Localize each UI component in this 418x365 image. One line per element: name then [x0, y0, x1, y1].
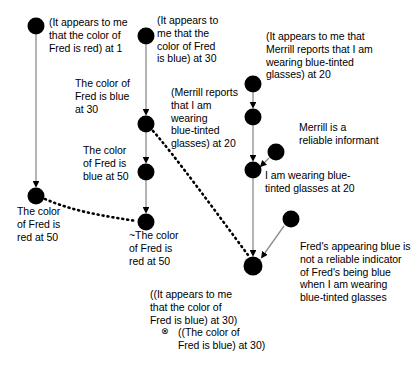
label-undercut-conclusion-part1: ((It appears to me that the color of Fre…: [150, 288, 262, 326]
label-color-blue-at-50: The color of Fred is blue at 50: [83, 144, 147, 182]
node-not-color-red-at-50[interactable]: [138, 214, 155, 231]
node-color-blue-at-30[interactable]: [138, 116, 155, 133]
edge-support-n9-n10: [261, 158, 269, 166]
diagram-canvas: (It appears to me that the color of Fred…: [0, 0, 418, 365]
label-undercut-conclusion-part2: ((The color of Fred is blue) at 30): [178, 326, 272, 352]
label-merrill-reliable: Merrill is a reliable informant: [299, 121, 411, 147]
label-not-reliable-indicator: Fred's appearing blue is not a reliable …: [300, 240, 418, 304]
label-not-color-red-at-50: ~The color of Fred is red at 50: [129, 229, 205, 267]
otimes-icon: ⊗: [161, 327, 169, 336]
node-not-reliable-indicator[interactable]: [283, 211, 300, 228]
node-appears-red-at-1[interactable]: [28, 18, 45, 35]
label-wearing-glasses-at-20: I am wearing blue- tinted glasses at 20: [265, 169, 383, 195]
node-merrill-reliable[interactable]: [268, 144, 285, 161]
label-color-red-at-50: The color of Fred is red at 50: [17, 205, 91, 243]
label-merrill-reports: (Merrill reports that I am wearing blue-…: [171, 86, 251, 150]
node-wearing-glasses-at-20[interactable]: [245, 162, 262, 179]
node-color-red-at-50[interactable]: [28, 188, 45, 205]
edge-support-n11-n12: [262, 226, 284, 257]
label-color-blue-at-30: The color of Fred is blue at 30: [75, 77, 147, 115]
label-appears-red-at-1: (It appears to me that the color of Fred…: [49, 16, 159, 54]
node-undercut-conclusion[interactable]: [244, 257, 263, 276]
label-appears-blue-at-30: (It appears to me that the color of Fred…: [157, 14, 243, 65]
label-appears-merrill-reports: (It appears to me that Merrill reports t…: [266, 30, 410, 81]
